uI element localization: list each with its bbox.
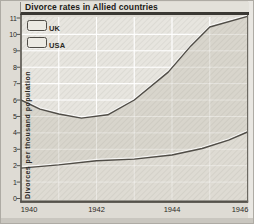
x-tick-label-1946: 1946 [225,205,254,215]
y-tick-label-0: 0 [1,194,17,203]
legend-label-uk: UK [49,24,60,33]
legend-label-usa: USA [49,41,65,50]
y-tick-label-3: 3 [1,145,17,154]
chart-title: Divorce rates in Allied countries [21,2,249,13]
y-tick-label-10: 10 [1,30,17,39]
y-tick-label-8: 8 [1,63,17,72]
usa-series-swatch-icon [27,37,47,48]
y-axis-label: Divorces per thousand population [24,71,31,199]
y-tick-label-4: 4 [1,128,17,137]
y-tick-label-2: 2 [1,161,17,170]
x-tick-label-1940: 1940 [14,205,44,215]
x-axis-line [20,201,248,203]
x-tick-label-1944: 1944 [157,205,187,215]
y-tick-label-6: 6 [1,96,17,105]
y-tick-label-5: 5 [1,112,17,121]
y-tick-label-11: 11 [1,14,17,23]
y-tick-label-1: 1 [1,178,17,187]
chart-title-bar: Divorce rates in Allied countries [20,2,249,15]
y-tick-label-7: 7 [1,79,17,88]
divorce-rates-chart-card: Divorce rates in Allied countries Divorc… [0,0,254,224]
legend-item-usa: USA [27,37,65,50]
chart-legend: UK USA [27,20,65,54]
y-tick-label-9: 9 [1,46,17,55]
legend-item-uk: UK [27,20,65,33]
uk-series-swatch-icon [27,20,47,31]
x-tick-label-1942: 1942 [82,205,112,215]
